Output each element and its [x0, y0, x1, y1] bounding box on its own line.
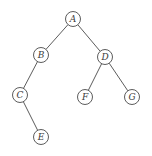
- node-g: G: [125, 90, 140, 105]
- edge-d-g: [109, 63, 128, 91]
- node-b: B: [34, 48, 49, 63]
- edges-layer: [23, 25, 127, 131]
- node-label: E: [37, 132, 45, 142]
- node-label: B: [37, 50, 45, 60]
- node-c: C: [13, 88, 28, 103]
- node-d: D: [98, 50, 113, 65]
- node-f: F: [78, 90, 93, 105]
- edge-a-b: [46, 25, 68, 50]
- node-label: D: [100, 52, 108, 62]
- node-e: E: [34, 130, 49, 145]
- tree-diagram: ABDCFGE: [0, 0, 152, 156]
- tree-canvas: ABDCFGE: [0, 0, 152, 156]
- edge-d-f: [88, 64, 101, 91]
- node-label: A: [69, 14, 77, 24]
- edge-a-d: [78, 25, 100, 52]
- edge-c-e: [23, 102, 37, 131]
- nodes-layer: ABDCFGE: [13, 12, 140, 145]
- node-label: C: [17, 90, 24, 100]
- node-a: A: [66, 12, 81, 27]
- node-label: G: [128, 92, 135, 102]
- node-label: F: [81, 92, 89, 102]
- edge-b-c: [23, 62, 37, 89]
